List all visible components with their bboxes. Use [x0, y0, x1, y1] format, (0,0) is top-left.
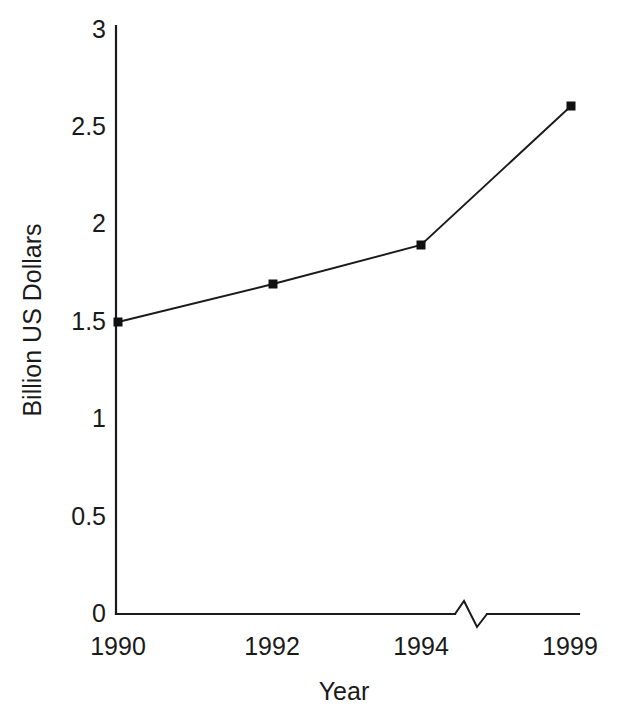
y-tick-label-1: 1: [92, 404, 106, 432]
chart-canvas: 3 2.5 2 1.5 1 0.5 0 1990 1992 1994 1999 …: [0, 0, 629, 713]
y-axis-title: Billion US Dollars: [18, 223, 46, 416]
x-tick-label-1994: 1994: [393, 632, 449, 660]
y-tick-label-3: 3: [92, 15, 106, 43]
x-tick-label-1992: 1992: [244, 632, 300, 660]
y-tick-label-1-5: 1.5: [71, 307, 106, 335]
y-tick-label-0: 0: [92, 599, 106, 627]
y-tick-label-2: 2: [92, 209, 106, 237]
data-point-1994: [417, 241, 425, 249]
x-tick-label-1999: 1999: [542, 632, 598, 660]
line-chart: 3 2.5 2 1.5 1 0.5 0 1990 1992 1994 1999 …: [0, 0, 629, 713]
y-tick-label-2-5: 2.5: [71, 112, 106, 140]
data-point-1999: [567, 102, 575, 110]
x-tick-label-1990: 1990: [90, 632, 146, 660]
data-point-1992: [269, 280, 277, 288]
y-tick-label-0-5: 0.5: [71, 502, 106, 530]
x-axis-title: Year: [319, 677, 370, 705]
data-point-1990: [114, 318, 122, 326]
